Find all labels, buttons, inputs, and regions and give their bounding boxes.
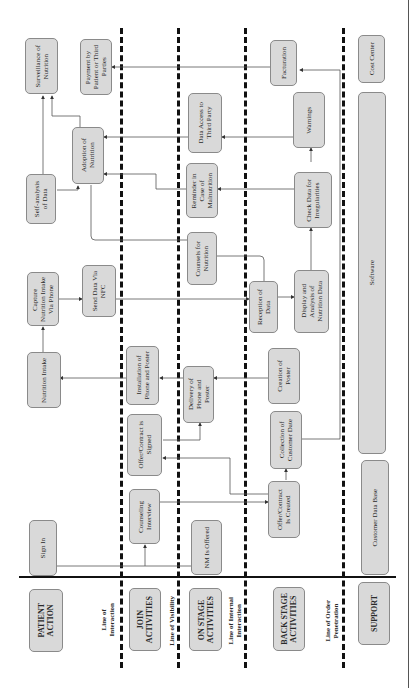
node-display-analysis[interactable]: Display and Analysis of Nutrition Data <box>294 270 329 333</box>
node-surveillance-of-nutrition[interactable]: Surveillance of Nutrition <box>25 38 58 94</box>
node-payment[interactable]: Payment by Patient or Third Parties <box>80 39 112 95</box>
node-cost-center[interactable]: Cost Center <box>358 35 385 83</box>
node-label: Customer Data Base <box>371 489 379 547</box>
node-reminder[interactable]: Reminder in Case of Malnutrition <box>186 163 218 218</box>
node-send-data-nfc[interactable]: Send Data Via NFC <box>82 265 116 317</box>
node-label: Cost Center <box>368 42 376 75</box>
lane-patient-action: PATIENT ACTION <box>29 589 63 652</box>
node-offer-signed[interactable]: Offer/Contract is Signed <box>127 414 162 476</box>
node-label: Nutrition Intake <box>40 358 48 403</box>
node-label: Counsels for Nutrition <box>194 241 210 277</box>
node-creation-of-poster[interactable]: Creation of Poster <box>268 348 300 404</box>
node-counsels[interactable]: Counsels for Nutrition <box>187 232 217 285</box>
node-label: Send Data Via NFC <box>91 271 107 311</box>
label-line-of-order-penetration: Line of Order Penetration <box>322 592 342 650</box>
line-of-internal-interaction <box>244 28 247 668</box>
node-label: Installation of Phone and Poster <box>135 351 151 400</box>
lane-label: JOIN ACTIVITIES <box>136 596 154 643</box>
node-sign-in[interactable]: Sign In <box>29 520 57 576</box>
node-installation[interactable]: Installation of Phone and Poster <box>126 346 159 405</box>
node-nutrition-intake[interactable]: Nutrition Intake <box>27 352 61 408</box>
node-label: Check Data for Irregularities <box>305 179 321 222</box>
right-border <box>408 0 409 688</box>
node-counseling-interview[interactable]: Counseling Interview <box>129 489 160 544</box>
node-label: Warnings <box>305 107 313 134</box>
node-collection-customer-data[interactable]: Collection of Customer Date <box>270 411 302 469</box>
node-check-data[interactable]: Check Data for Irregularities <box>294 172 332 228</box>
label-line-of-visibility: Line of Visibility <box>166 590 178 652</box>
node-label: Offer/Contract is Signed <box>137 421 153 469</box>
node-label: Reminder in Case of Malnutrition <box>190 173 214 208</box>
lane-on-stage-activities: ON STAGE ACTIVITIES <box>189 588 222 651</box>
node-capture-intake[interactable]: Capture Nutrition Intake Via Phone <box>27 272 59 326</box>
node-label: NM Is Offered <box>203 527 211 568</box>
node-offer-created[interactable]: Offer/Contract Is Created <box>268 481 300 538</box>
label-line-of-internal-interaction: Line of Internal Interaction <box>225 590 245 652</box>
lane-label: ON STAGE ACTIVITIES <box>197 596 215 643</box>
line-of-visibility <box>177 28 180 668</box>
node-label: Adoption of Nutrition <box>80 138 96 172</box>
node-label: Reception of Data <box>256 289 272 325</box>
node-self-analysis[interactable]: Self-analysis of Data <box>26 174 56 224</box>
node-label: Capture Nutrition Intake Via Phone <box>31 277 55 322</box>
node-label: Delivery of Phone and Poster <box>187 378 211 410</box>
node-warnings[interactable]: Warnings <box>293 92 325 148</box>
lane-label: SUPPORT <box>370 595 379 632</box>
node-adoption-of-nutrition[interactable]: Adoption of Nutrition <box>72 127 104 184</box>
node-facturation[interactable]: Facturation <box>270 40 297 86</box>
node-label: Creation of Poster <box>276 360 292 392</box>
node-data-access[interactable]: Data Access to Third Party <box>188 93 222 153</box>
lane-label: PATIENT ACTION <box>37 603 55 637</box>
label-line-of-interaction: Line of Interaction <box>98 595 118 645</box>
lane-join-activities: JOIN ACTIVITIES <box>129 588 161 651</box>
node-label: Self-analysis of Data <box>33 181 49 217</box>
node-label: Data Access to Third Party <box>197 102 213 144</box>
line-of-interaction <box>120 28 123 668</box>
lane-support: SUPPORT <box>358 582 390 645</box>
node-label: Facturation <box>280 47 288 79</box>
node-label: Collection of Customer Date <box>278 419 294 461</box>
node-delivery[interactable]: Delivery of Phone and Poster <box>183 366 214 423</box>
node-label: Display and Analysis of Nutrition Data <box>300 281 324 322</box>
node-label: Counseling Interview <box>137 501 153 533</box>
lane-back-stage-activities: BACK STAGE ACTIVITIES <box>273 587 305 651</box>
node-customer-database[interactable]: Customer Data Base <box>361 460 389 575</box>
node-label: Software <box>368 260 376 285</box>
node-nm-offered[interactable]: NM Is Offered <box>191 520 222 575</box>
node-label: Payment by Patient or Third Parties <box>84 45 108 89</box>
node-reception-of-data[interactable]: Reception of Data <box>249 281 278 333</box>
lane-label: BACK STAGE ACTIVITIES <box>280 593 298 645</box>
node-label: Sign In <box>39 538 47 558</box>
node-label: Surveillance of Nutrition <box>34 45 50 88</box>
line-of-order-penetration <box>342 28 345 668</box>
node-label: Offer/Contract Is Created <box>276 489 292 530</box>
lane-header-separator <box>19 576 396 578</box>
node-software[interactable]: Software <box>358 92 386 454</box>
